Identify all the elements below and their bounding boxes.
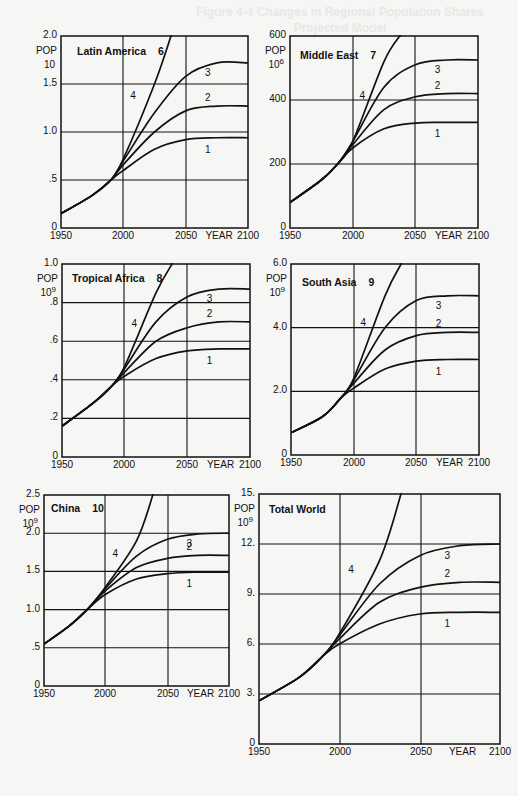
unit-exponent: 9 <box>249 515 253 524</box>
series-line-4 <box>259 492 402 701</box>
curve-label-4: 4 <box>348 564 354 575</box>
series-line-2 <box>259 582 500 701</box>
x-tick-label: 1950 <box>248 747 270 757</box>
chart-title-text: Total World <box>269 503 326 515</box>
x-tick-label: 2050 <box>410 747 432 757</box>
x-tick-label: 2000 <box>329 747 351 757</box>
y-axis-label: POP <box>234 504 255 514</box>
series-line-1 <box>259 612 500 700</box>
curve-label-3: 3 <box>445 550 451 561</box>
y-tick-label: 3. <box>247 688 255 698</box>
x-axis-label: YEAR <box>449 747 476 757</box>
y-tick-label: 15. <box>241 488 255 498</box>
curve-label-1: 1 <box>445 618 451 629</box>
y-axis-unit: 109 <box>237 518 253 528</box>
y-tick-label: 12. <box>241 538 255 548</box>
plot-area <box>0 0 518 796</box>
unit-base: 10 <box>237 517 248 528</box>
series-line-3 <box>259 544 500 701</box>
chart-frame <box>259 494 500 744</box>
x-tick-label: 2100 <box>489 747 511 757</box>
curve-label-2: 2 <box>445 568 451 579</box>
y-tick-label: 9. <box>247 588 255 598</box>
chart-title: Total World <box>269 503 326 515</box>
y-tick-label: 6. <box>247 638 255 648</box>
